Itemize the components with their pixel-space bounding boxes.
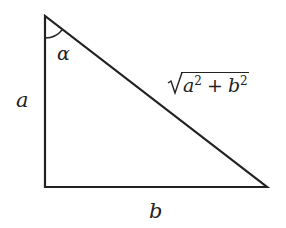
label-side-a: a xyxy=(16,90,29,111)
right-triangle xyxy=(45,16,267,187)
hyp-var-b: b xyxy=(228,74,240,96)
triangle-figure xyxy=(0,0,286,228)
hyp-plus: + xyxy=(207,74,223,96)
label-angle-alpha: α xyxy=(57,44,70,63)
hyp-var-a: a xyxy=(183,74,194,96)
hyp-exp-b: 2 xyxy=(240,74,248,88)
angle-alpha-arc xyxy=(45,30,63,39)
hypotenuse-expression: a2+b2 xyxy=(181,72,249,95)
hyp-exp-a: 2 xyxy=(194,74,202,88)
label-side-b: b xyxy=(149,201,162,222)
